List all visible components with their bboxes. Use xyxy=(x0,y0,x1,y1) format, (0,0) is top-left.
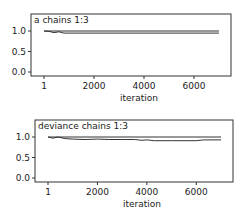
y-tick-label: 0.0 xyxy=(12,67,27,77)
x-tick-label: 1 xyxy=(45,187,51,197)
y-tick-label: 0.0 xyxy=(16,173,31,183)
x-axis-title: iteration xyxy=(120,93,158,103)
x-axis-title: iteration xyxy=(123,199,161,209)
x-tick-label: 1 xyxy=(41,81,47,91)
panel-a: a chains 1:30.00.51.01200040006000iterat… xyxy=(12,14,231,103)
chart-figure: a chains 1:30.00.51.01200040006000iterat… xyxy=(0,0,246,214)
x-tick-label: 2000 xyxy=(86,187,109,197)
series-line-lower xyxy=(48,137,221,141)
y-tick-label: 0.5 xyxy=(16,153,30,163)
y-tick-label: 0.5 xyxy=(12,47,26,57)
panel-title: deviance chains 1:3 xyxy=(38,121,128,131)
x-tick-label: 6000 xyxy=(183,81,206,91)
panel-deviance: deviance chains 1:30.00.51.0120004000600… xyxy=(16,120,233,209)
x-tick-label: 4000 xyxy=(133,81,156,91)
panel-title: a chains 1:3 xyxy=(34,15,89,25)
y-tick-label: 1.0 xyxy=(16,132,31,142)
x-tick-label: 6000 xyxy=(185,187,208,197)
x-tick-label: 2000 xyxy=(83,81,106,91)
x-tick-label: 4000 xyxy=(135,187,158,197)
y-tick-label: 1.0 xyxy=(12,26,27,36)
